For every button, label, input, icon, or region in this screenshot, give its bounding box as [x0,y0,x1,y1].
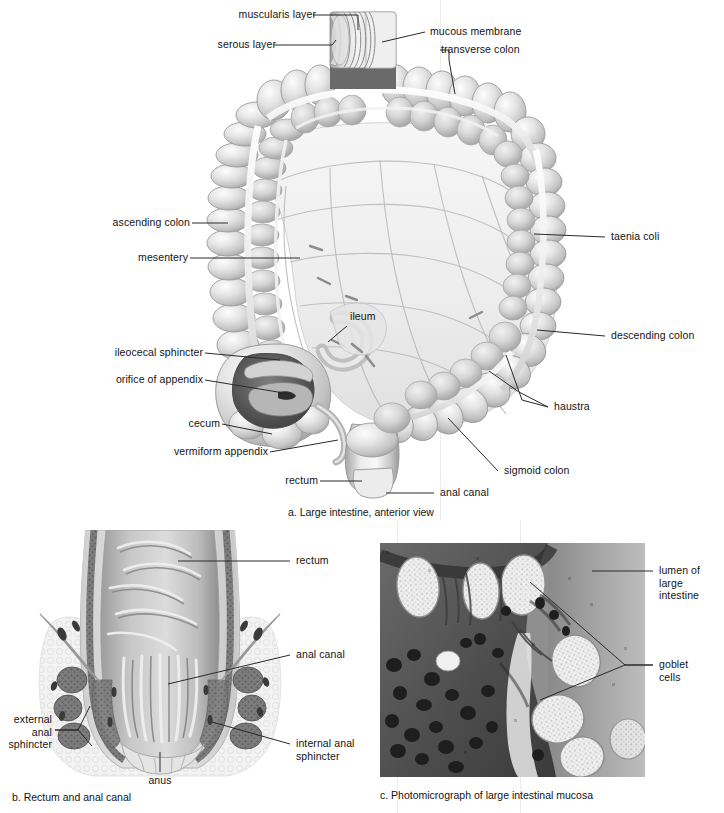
label-sigmoid-colon: sigmoid colon [504,464,570,477]
label-descending-colon: descending colon [611,329,694,342]
label-haustra: haustra [554,400,590,413]
panel-c-caption: c. Photomicrograph of large intestinal m… [380,789,593,801]
photomicrograph-large-intestinal-mucosa [380,543,645,777]
panel-b-caption: b. Rectum and anal canal [12,791,131,803]
label-internal-anal-sphincter: internal anal sphincter [296,737,355,762]
label-anal-canal-b: anal canal [296,648,345,661]
label-ileum: ileum [350,310,376,323]
anatomy-figure: muscularis layer serous layer mucous mem… [0,0,724,813]
label-serous-layer: serous layer [176,38,276,51]
label-goblet-cells: goblet cells [659,658,688,683]
label-vermiform-appendix: vermiform appendix [140,445,268,458]
label-transverse-colon: transverse colon [441,43,520,56]
label-rectum-b: rectum [296,554,329,567]
label-anal-canal-a: anal canal [440,486,489,499]
micrograph-content [380,543,645,777]
rectum-anal-canal-illustration [10,530,310,792]
anal-canal-shape [353,468,393,498]
label-external-anal-sphincter: external anal sphincter [0,713,52,751]
label-muscularis-layer: muscularis layer [176,8,316,21]
label-taenia-coli: taenia coli [611,230,659,243]
label-ileocecal-sphincter: ileocecal sphincter [95,346,203,359]
rectum-anal-canal-group [345,403,410,498]
panel-a-caption: a. Large intestine, anterior view [288,506,434,518]
label-cecum: cecum [160,417,220,430]
colon-wall-cutaway [330,12,396,89]
label-lumen-of-large-intestine: lumen of large intestine [659,564,700,602]
label-mucous-membrane: mucous membrane [430,25,521,38]
label-ascending-colon: ascending colon [80,216,190,229]
label-rectum-a: rectum [258,474,318,487]
label-mesentery: mesentery [90,251,188,264]
label-orifice-of-appendix: orifice of appendix [97,373,203,386]
label-anus: anus [136,774,184,787]
